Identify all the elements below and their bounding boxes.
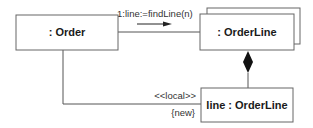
object-line-orderline-label: line : OrderLine <box>206 99 287 111</box>
object-order[interactable]: : Order <box>16 15 118 50</box>
object-order-label: : Order <box>49 26 86 38</box>
stereotype-label: <<local>> <box>154 90 196 101</box>
message-arrow-icon <box>137 22 172 27</box>
constraint-label: {new} <box>171 107 195 118</box>
uml-diagram-canvas: 1:line:=findLine(n) : Order : OrderLine … <box>0 0 313 128</box>
message-label: 1:line:=findLine(n) <box>117 8 193 19</box>
composition-diamond-icon <box>243 51 253 73</box>
object-orderline-multi-label: : OrderLine <box>217 26 276 38</box>
object-orderline-multi[interactable]: : OrderLine <box>200 8 300 50</box>
object-line-orderline[interactable]: line : OrderLine <box>201 88 293 122</box>
